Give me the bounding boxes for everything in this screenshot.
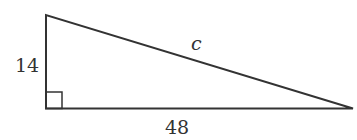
right-angle-marker — [46, 92, 62, 109]
triangle-diagram: 14 c 48 — [0, 0, 357, 140]
hypotenuse-label: c — [191, 32, 202, 54]
vertical-leg-label: 14 — [15, 54, 39, 76]
horizontal-leg-label: 48 — [165, 116, 189, 138]
right-triangle — [46, 15, 353, 109]
triangle-figure: 14 c 48 — [0, 0, 357, 140]
